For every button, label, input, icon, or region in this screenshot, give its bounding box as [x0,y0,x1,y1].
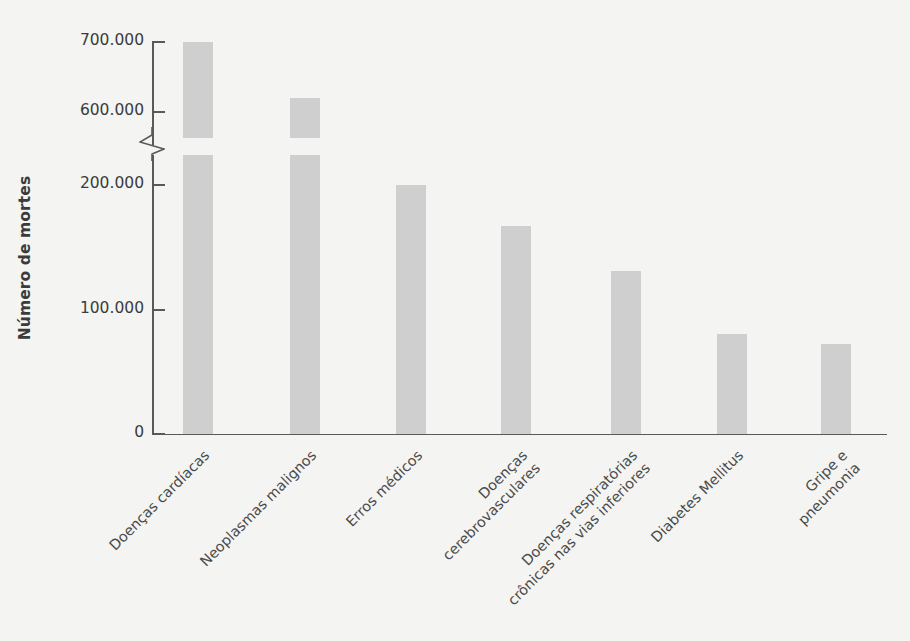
y-axis-tick-label: 200.000 [0,174,144,192]
x-axis-category-label-0: Doenças cardíacas [106,447,214,555]
x-axis-category-label-1: Neoplasmas malignos [197,447,321,571]
y-axis-tick-label-wrap: 0 [0,423,144,441]
y-axis-tick-label: 600.000 [0,101,144,119]
bar-6 [821,344,851,434]
y-axis-tick-label: 700.000 [0,31,144,49]
bar-1-lower [290,155,320,434]
bar-0-lower [183,155,213,434]
y-axis-tick [152,309,165,311]
bar-4 [611,271,641,434]
y-axis-tick-label: 0 [0,423,144,441]
bar-3 [501,226,531,434]
y-axis-tick-label-wrap: 200.000 [0,174,144,192]
y-axis-tick-label-wrap: 600.000 [0,101,144,119]
bar-5 [717,334,747,434]
y-axis-tick [152,111,165,113]
x-axis-category-label-3: Doenças cerebrovasculares [427,447,545,565]
y-axis-tick [152,41,165,43]
x-axis-category-label-6: Gripe e pneumonia [782,447,864,529]
y-axis-tick-label-wrap: 100.000 [0,299,144,317]
bar-0-upper [183,42,213,138]
x-axis-category-label-5: Diabetes Mellitus [648,447,748,547]
bar-2 [396,185,426,434]
y-axis-tick [152,184,165,186]
y-axis-line-lower [152,155,154,435]
bar-1-upper [290,98,320,138]
y-axis-tick [152,433,165,435]
y-axis-tick-label: 100.000 [0,299,144,317]
y-axis-tick-label-wrap: 700.000 [0,31,144,49]
bar-chart: Número de mortes 700.000600.000200.00010… [0,0,910,641]
x-axis-category-label-2: Erros médicos [343,447,427,531]
axis-break-icon [139,127,165,161]
